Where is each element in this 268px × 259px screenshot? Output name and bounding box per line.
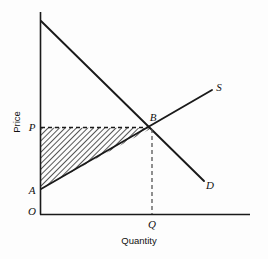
x-axis-label: Quantity	[121, 235, 157, 246]
quantity-tick-label-Q: Q	[148, 218, 156, 230]
origin-label-O: O	[28, 205, 36, 217]
y-axis-label: Price	[11, 111, 22, 133]
supply-intercept-label-A: A	[28, 184, 36, 196]
supply-demand-chart: Price Quantity P Q A O B S D	[0, 0, 268, 259]
supply-curve-label-S: S	[216, 81, 222, 93]
demand-curve-label-D: D	[205, 179, 214, 191]
price-tick-label-P: P	[28, 121, 36, 133]
supply-demand-figure: Price Quantity P Q A O B S D	[0, 0, 268, 259]
equilibrium-label-B: B	[150, 111, 157, 123]
